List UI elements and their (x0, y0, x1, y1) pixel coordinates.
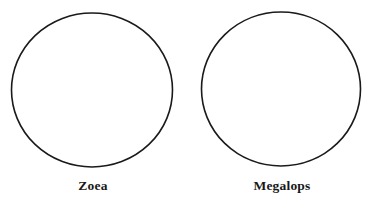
panel-zoea: Zoea (0, 0, 186, 210)
larval-stage-figure: Zoea Megalops (0, 0, 375, 210)
megalops-circle-outline (202, 12, 361, 166)
zoea-caption: Zoea (0, 178, 188, 194)
megalops-caption: Megalops (189, 178, 375, 194)
panel-megalops: Megalops (189, 0, 375, 210)
zoea-shape-slot (0, 0, 186, 175)
megalops-shape-slot (189, 0, 375, 175)
megalops-circle-svg (189, 0, 375, 175)
zoea-circle-svg (0, 0, 186, 175)
zoea-circle-outline (12, 13, 173, 167)
